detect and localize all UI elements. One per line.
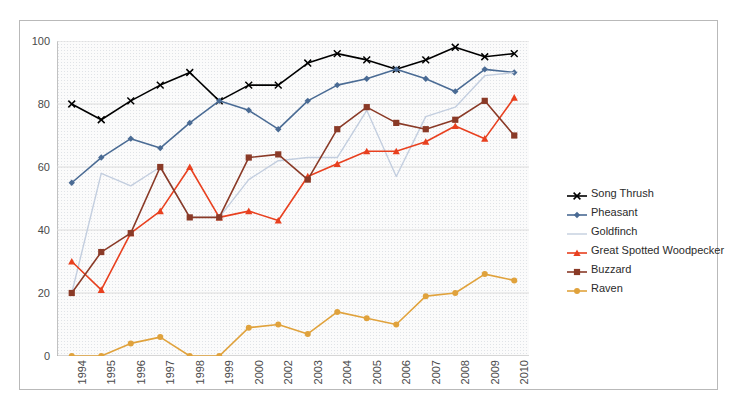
data-point-marker (186, 69, 193, 76)
series-song-thrush (68, 44, 517, 123)
x-axis-tick-label: 2008 (459, 360, 471, 384)
data-point-marker (305, 331, 311, 337)
series-line (72, 73, 515, 294)
data-point-marker (482, 271, 488, 277)
data-point-marker (511, 132, 517, 138)
legend-item-song-thrush[interactable]: Song Thrush (566, 184, 726, 203)
series-raven (69, 271, 518, 356)
legend-item-buzzard[interactable]: Buzzard (566, 260, 726, 279)
plot-area (57, 41, 529, 356)
data-point-marker (68, 258, 75, 265)
x-axis-tick-label: 2006 (400, 360, 412, 384)
legend-label: Goldfinch (591, 226, 637, 237)
legend-marker-icon (566, 188, 588, 200)
data-point-marker (452, 290, 458, 296)
data-point-marker (452, 122, 459, 129)
data-point-marker (128, 230, 134, 236)
x-axis-tick-label: 2010 (518, 360, 530, 384)
legend-item-goldfinch[interactable]: Goldfinch (566, 222, 726, 241)
data-point-marker (128, 340, 134, 346)
chart-legend: Song ThrushPheasantGoldfinchGreat Spotte… (566, 184, 726, 298)
legend-item-raven[interactable]: Raven (566, 279, 726, 298)
data-point-marker (574, 268, 580, 274)
data-point-marker (305, 177, 311, 183)
legend-label: Song Thrush (591, 188, 654, 199)
data-point-marker (157, 82, 164, 89)
series-buzzard (69, 98, 518, 296)
legend-marker-icon (566, 245, 588, 257)
data-point-marker (275, 322, 281, 328)
x-axis-tick-label: 1997 (164, 360, 176, 384)
data-point-marker (393, 322, 399, 328)
data-point-marker (422, 138, 429, 145)
legend-marker-icon (566, 283, 588, 295)
x-axis-tick-label: 2004 (341, 360, 353, 384)
data-point-marker (482, 98, 488, 104)
x-axis: 1994199519961997199819992000200220032004… (57, 358, 529, 406)
x-axis-tick-label: 2009 (489, 360, 501, 384)
data-point-marker (275, 151, 281, 157)
x-axis-tick-label: 2007 (430, 360, 442, 384)
data-point-marker (364, 104, 370, 110)
legend-label: Pheasant (591, 207, 637, 218)
data-point-marker (574, 288, 580, 294)
y-axis-tick-label: 20 (38, 287, 50, 299)
data-point-marker (334, 309, 340, 315)
chart-figure: 020406080100 199419951996199719981999200… (0, 0, 737, 411)
legend-label: Great Spotted Woodpecker (591, 245, 724, 256)
data-point-marker (452, 117, 458, 123)
data-point-marker (364, 76, 370, 82)
data-point-marker (157, 164, 163, 170)
y-axis: 020406080100 (14, 41, 50, 356)
data-point-marker (393, 120, 399, 126)
series-lines (57, 41, 529, 356)
data-point-marker (246, 154, 252, 160)
legend-marker-icon (566, 264, 588, 276)
series-line (72, 98, 515, 290)
legend-item-pheasant[interactable]: Pheasant (566, 203, 726, 222)
series-goldfinch (72, 73, 515, 294)
y-axis-tick-label: 60 (38, 161, 50, 173)
chart-area: 020406080100 199419951996199719981999200… (0, 0, 737, 411)
legend-label: Raven (591, 283, 623, 294)
data-point-marker (423, 76, 429, 82)
data-point-marker (364, 315, 370, 321)
data-point-marker (98, 353, 104, 356)
data-point-marker (423, 126, 429, 132)
data-point-marker (511, 94, 518, 101)
data-point-marker (69, 353, 75, 356)
data-point-marker (157, 334, 163, 340)
data-point-marker (98, 116, 105, 123)
data-point-marker (187, 214, 193, 220)
x-axis-tick-label: 2002 (282, 360, 294, 384)
legend-label: Buzzard (591, 264, 631, 275)
x-axis-tick-label: 1998 (194, 360, 206, 384)
data-point-marker (511, 277, 517, 283)
data-point-marker (334, 82, 340, 88)
legend-marker-icon (566, 226, 588, 238)
legend-item-great-spotted-woodpecker[interactable]: Great Spotted Woodpecker (566, 241, 726, 260)
series-great-spotted-woodpecker (68, 94, 518, 293)
series-line (72, 274, 515, 356)
x-axis-tick-label: 2000 (253, 360, 265, 384)
y-axis-tick-label: 80 (38, 98, 50, 110)
x-axis-tick-label: 2005 (371, 360, 383, 384)
series-line (72, 69, 515, 182)
y-axis-tick-label: 0 (44, 350, 50, 362)
data-point-marker (423, 293, 429, 299)
data-point-marker (574, 211, 580, 217)
y-axis-tick-label: 40 (38, 224, 50, 236)
data-point-marker (246, 325, 252, 331)
x-axis-tick-label: 1999 (223, 360, 235, 384)
x-axis-tick-label: 1994 (76, 360, 88, 384)
x-axis-tick-label: 1996 (135, 360, 147, 384)
y-axis-tick-label: 100 (32, 35, 50, 47)
data-point-marker (334, 126, 340, 132)
data-point-marker (127, 97, 134, 104)
data-point-marker (187, 353, 193, 356)
legend-marker-icon (566, 207, 588, 219)
data-point-marker (216, 214, 222, 220)
x-axis-tick-label: 1995 (105, 360, 117, 384)
data-point-marker (98, 249, 104, 255)
x-axis-tick-label: 2003 (312, 360, 324, 384)
